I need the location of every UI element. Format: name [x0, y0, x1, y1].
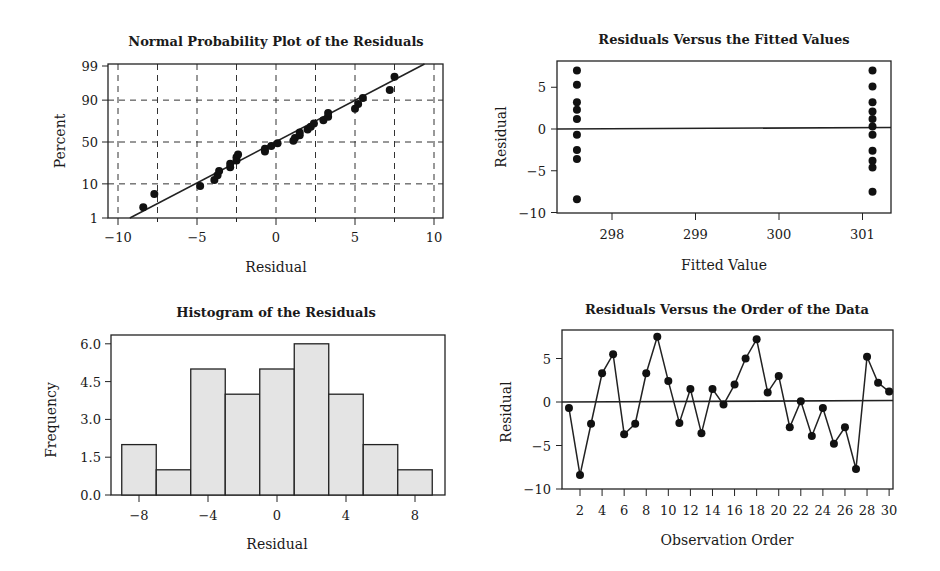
x-axis-label: Residual — [246, 536, 308, 552]
data-point — [764, 388, 772, 396]
tick-label: −10 — [519, 206, 546, 221]
data-point — [869, 107, 877, 115]
tick-label: −10 — [524, 482, 551, 497]
data-point — [808, 432, 816, 440]
histogram-bar — [191, 369, 226, 495]
data-point — [587, 420, 595, 428]
data-point — [797, 397, 805, 405]
tick-label: 299 — [683, 227, 708, 242]
tick-label: 18 — [748, 503, 765, 518]
data-point — [573, 115, 581, 123]
data-point — [885, 388, 893, 396]
tick-label: 0.0 — [80, 488, 101, 503]
y-axis: −10−505 — [524, 352, 562, 498]
tick-label: 6.0 — [80, 337, 101, 352]
data-point — [359, 94, 367, 102]
tick-label: 90 — [81, 93, 98, 108]
tick-label: 16 — [726, 503, 743, 518]
data-points — [565, 333, 893, 479]
data-point — [720, 401, 728, 409]
data-point — [324, 109, 332, 117]
data-point — [697, 429, 705, 437]
data-point — [869, 147, 877, 155]
data-point — [753, 335, 761, 343]
chart-title: Normal Probability Plot of the Residuals — [128, 34, 423, 49]
y-axis: 110509099 — [81, 59, 108, 226]
residual-line — [569, 337, 889, 475]
data-point — [869, 82, 877, 90]
tick-label: 8 — [411, 508, 419, 523]
data-point — [573, 81, 581, 89]
data-point — [573, 67, 581, 75]
data-point — [391, 73, 399, 81]
data-point — [573, 131, 581, 139]
data-point — [565, 404, 573, 412]
histogram-bar — [260, 369, 295, 495]
tick-label: −5 — [527, 164, 546, 179]
data-point — [296, 128, 304, 136]
y-axis-label: Residual — [493, 106, 509, 168]
histogram-plot: Histogram of the Residuals 0.01.53.04.56… — [0, 285, 470, 571]
chart-title: Residuals Versus the Order of the Data — [585, 302, 870, 317]
tick-label: 5 — [538, 80, 546, 95]
tick-label: 0 — [273, 508, 281, 523]
tick-label: 1 — [90, 211, 98, 226]
normal-probability-plot: Normal Probability Plot of the Residuals… — [0, 0, 470, 285]
data-point — [310, 120, 318, 128]
tick-label: 3.0 — [80, 412, 101, 427]
data-points — [573, 67, 877, 204]
histogram-bar — [294, 344, 329, 495]
tick-label: 1.5 — [80, 450, 101, 465]
x-axis: −10−50510 — [104, 218, 442, 245]
residuals-vs-order-plot: Residuals Versus the Order of the Data −… — [470, 285, 940, 571]
tick-label: 5 — [351, 230, 359, 245]
chart-title: Histogram of the Residuals — [176, 305, 375, 320]
tick-label: 10 — [660, 503, 677, 518]
x-axis-label: Residual — [245, 259, 307, 275]
data-point — [573, 155, 581, 163]
data-point — [841, 423, 849, 431]
tick-label: 0 — [272, 230, 280, 245]
histogram-bar — [398, 470, 433, 495]
tick-label: −5 — [187, 230, 206, 245]
data-point — [196, 182, 204, 190]
tick-label: 5 — [543, 352, 551, 367]
tick-label: 0 — [543, 395, 551, 410]
data-point — [869, 131, 877, 139]
data-point — [573, 146, 581, 154]
data-point — [869, 163, 877, 171]
tick-label: 10 — [81, 177, 98, 192]
data-point — [664, 377, 672, 385]
residuals-vs-fitted-plot: Residuals Versus the Fitted Values −10−5… — [470, 0, 940, 285]
data-point — [675, 419, 683, 427]
data-point — [869, 115, 877, 123]
histogram-bar — [329, 394, 364, 495]
histogram-bar — [225, 394, 260, 495]
data-point — [708, 385, 716, 393]
y-axis: 0.01.53.04.56.0 — [80, 337, 111, 503]
data-point — [573, 106, 581, 114]
data-point — [775, 372, 783, 380]
x-axis-label: Fitted Value — [681, 257, 767, 273]
zero-reference-line — [562, 401, 893, 403]
data-point — [576, 471, 584, 479]
tick-label: 99 — [81, 59, 98, 74]
tick-label: −5 — [532, 439, 551, 454]
y-axis-label: Residual — [498, 381, 514, 443]
histogram-bar — [122, 445, 157, 495]
histogram-bar — [156, 470, 191, 495]
data-point — [874, 379, 882, 387]
tick-label: 24 — [815, 503, 832, 518]
data-point — [869, 67, 877, 75]
tick-label: 20 — [770, 503, 787, 518]
tick-label: −4 — [198, 508, 217, 523]
data-point — [686, 385, 694, 393]
tick-label: 2 — [576, 503, 584, 518]
tick-label: 28 — [859, 503, 876, 518]
data-point — [653, 333, 661, 341]
tick-label: 300 — [767, 227, 792, 242]
data-point — [573, 195, 581, 203]
data-point — [139, 203, 147, 211]
histogram-bars — [122, 344, 433, 495]
data-point — [234, 150, 242, 158]
